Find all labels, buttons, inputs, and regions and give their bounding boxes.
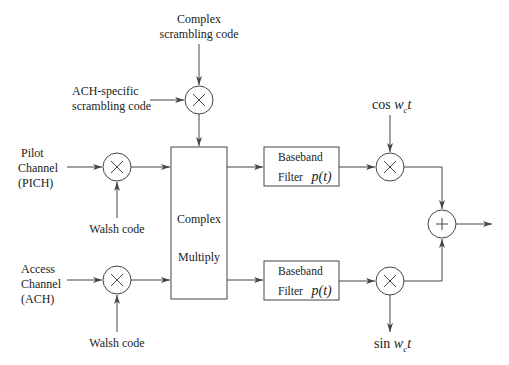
label-walsh-top: Walsh code	[82, 222, 152, 237]
label-ach-scrambling: ACH-specific scrambling code	[72, 84, 151, 114]
label-cos-carrier: cos wct	[372, 97, 411, 118]
label-sin-carrier: sin wct	[374, 336, 411, 357]
label-filter-lower: Baseband Filter p(t)	[278, 261, 332, 301]
arrow-cos-to-sum	[404, 167, 442, 209]
label-walsh-bottom: Walsh code	[82, 336, 152, 351]
label-complex-scrambling: Complex scrambling code	[147, 12, 251, 42]
label-complex-multiply: Complex Multiply	[171, 200, 227, 276]
label-pilot-channel: Pilot Channel (PICH)	[18, 146, 58, 191]
label-filter-upper: Baseband Filter p(t)	[278, 147, 332, 187]
diagram-canvas	[0, 0, 509, 365]
arrow-sin-to-sum	[404, 239, 442, 281]
label-access-channel: Access Channel (ACH)	[21, 262, 61, 307]
